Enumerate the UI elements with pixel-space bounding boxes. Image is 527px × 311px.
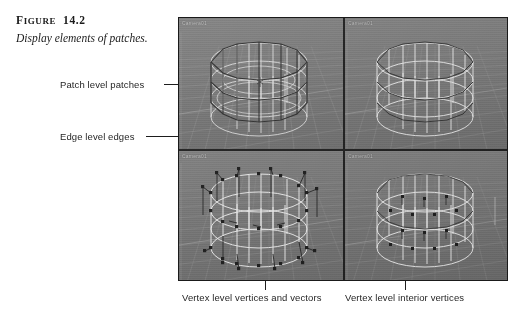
viewport-top-right-label: Camera01 [348,20,373,26]
viewport-bottom-right[interactable]: Camera01 [345,151,507,280]
figure-caption-text: Display elements of patches. [16,31,166,46]
figure-label-f: F [16,14,24,26]
viewport-top-right[interactable]: Camera01 [345,18,507,149]
viewport-bottom-left-canvas [179,151,343,280]
viewport-top-left-label: Camera01 [182,20,207,26]
viewport-top-left[interactable]: Camera01 [179,18,343,149]
viewport-top-right-canvas [345,18,507,149]
figure-label-igure: IGURE [24,16,57,26]
viewport-bottom-left-label: Camera01 [182,153,207,159]
viewport-bottom-right-label: Camera01 [348,153,373,159]
figure-label-number: 14.2 [63,14,86,26]
viewport-bottom-right-canvas [345,151,507,280]
viewport-separator-horizontal[interactable] [179,149,507,151]
callout-patch-level-label: Patch level patches [60,79,144,90]
viewport-top-left-canvas [179,18,343,149]
figure-number-label: FIGURE 14.2 [16,14,166,26]
callout-vertex-interior-label: Vertex level interior vertices [345,292,464,303]
callout-edge-level-label: Edge level edges [60,131,135,142]
figure-root: FIGURE 14.2 Display elements of patches.… [0,0,527,311]
application-screenshot: Camera01 [178,17,508,281]
callout-vertex-vectors-label: Vertex level vertices and vectors [182,292,322,303]
figure-caption-block: FIGURE 14.2 Display elements of patches. [16,14,166,46]
viewport-bottom-left[interactable]: Camera01 [179,151,343,280]
